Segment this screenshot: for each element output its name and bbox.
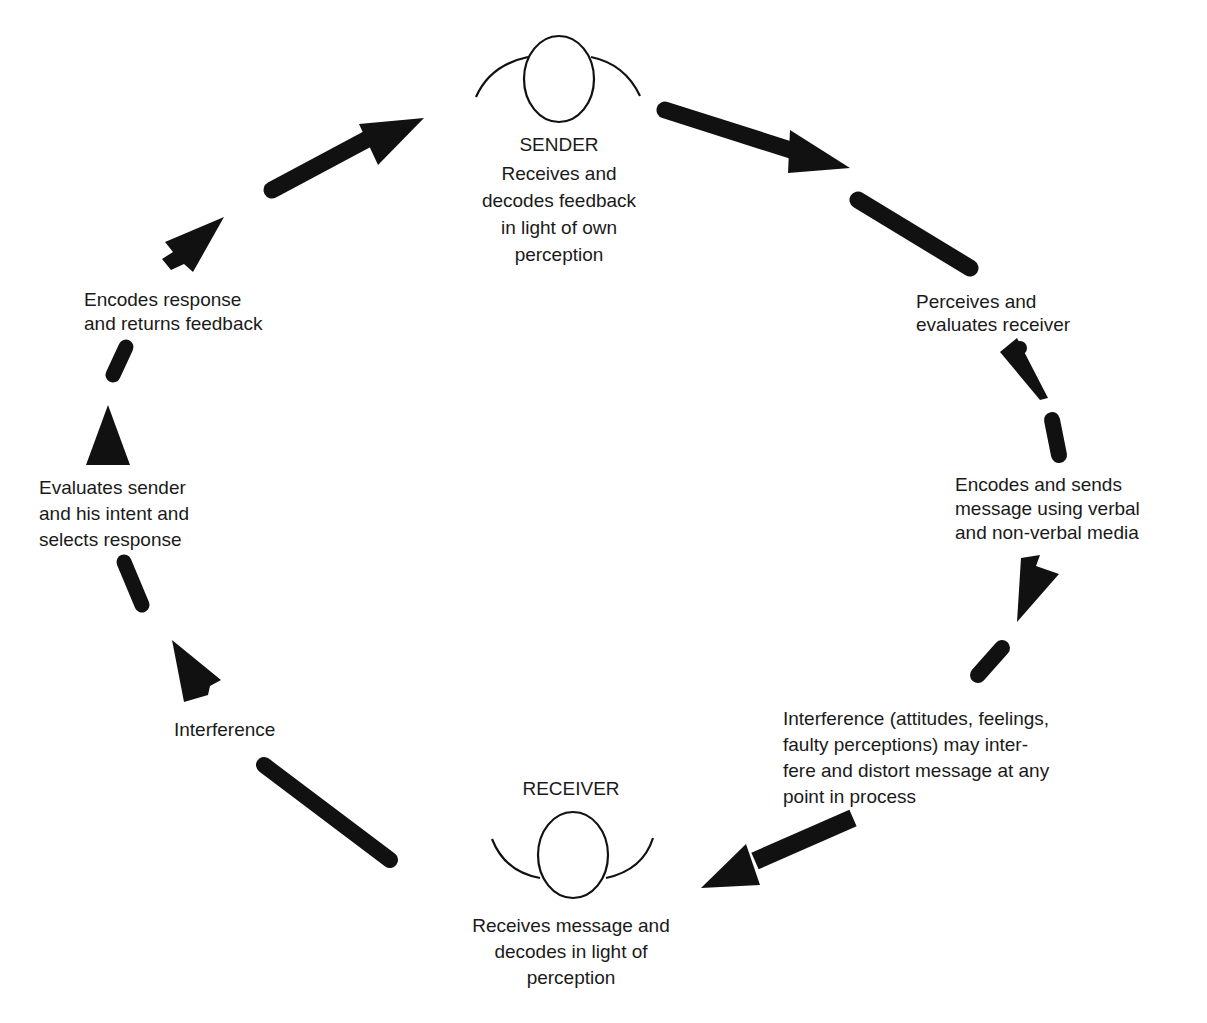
arrow-segment-receiver-to-interference bbox=[264, 765, 390, 860]
arrowhead-after-perceives bbox=[1000, 338, 1048, 400]
step-interference-label: Interference bbox=[174, 718, 374, 741]
arrowhead-after-interference bbox=[172, 640, 221, 702]
communication-cycle-diagram: SENDER Receives and decodes feedback in … bbox=[0, 0, 1207, 1023]
receiver-person-icon bbox=[492, 812, 653, 898]
arrow-feedback-to-sender bbox=[272, 118, 424, 190]
arrowhead-after-encodes-response bbox=[162, 217, 224, 272]
step-encodes-sends-label: Encodes and sends message using verbal a… bbox=[955, 473, 1195, 545]
arrow-sender-to-perceives bbox=[665, 110, 850, 173]
sender-title: SENDER bbox=[459, 133, 659, 156]
step-encodes-response-label: Encodes response and returns feedback bbox=[84, 288, 324, 336]
arrow-interference-to-receiver bbox=[701, 818, 853, 888]
arrow-segment-left-upper bbox=[113, 347, 126, 375]
step-perceives-label: Perceives and evaluates receiver bbox=[916, 290, 1136, 336]
step-interference-detail-label: Interference (attitudes, feelings, fault… bbox=[783, 706, 1083, 810]
receiver-description: Receives message and decodes in light of… bbox=[441, 913, 701, 991]
step-evaluates-sender-label: Evaluates sender and his intent and sele… bbox=[39, 475, 259, 553]
sender-person-icon bbox=[476, 36, 640, 122]
receiver-title: RECEIVER bbox=[471, 777, 671, 800]
arrow-segment-left-lower bbox=[124, 562, 142, 605]
arrow-segment-right bbox=[1052, 420, 1059, 455]
sender-description: Receives and decodes feedback in light o… bbox=[459, 160, 659, 268]
arrow-segment-lower-right bbox=[978, 648, 1002, 675]
arrowhead-after-encodes-sends bbox=[1017, 555, 1059, 622]
arrow-segment-perceives bbox=[858, 200, 970, 268]
arrowhead-after-evaluates bbox=[86, 405, 130, 465]
